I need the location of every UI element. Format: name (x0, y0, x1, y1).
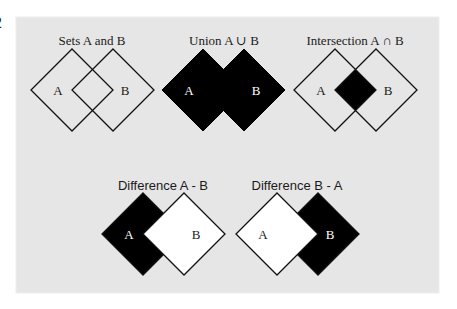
set-a-label: A (184, 83, 194, 98)
cropped-figure-number: 2 (0, 14, 2, 31)
diagram-title: Intersection A ∩ B (306, 33, 403, 48)
set-b-label: B (192, 227, 201, 242)
diagram-title: Difference B - A (252, 178, 343, 193)
set-a-label: A (53, 83, 63, 98)
set-a-label: A (316, 83, 326, 98)
set-a-label: A (124, 227, 134, 242)
diagram-title: Union A ∪ B (189, 33, 259, 48)
set-a-label: A (258, 227, 268, 242)
set-b-label: B (326, 227, 335, 242)
set-b-label: B (121, 83, 130, 98)
diagram-title: Sets A and B (59, 33, 126, 48)
diagram-title: Difference A - B (118, 178, 208, 193)
figure-panel (16, 17, 439, 293)
set-b-label: B (384, 83, 393, 98)
set-b-label: B (252, 83, 261, 98)
set-operations-figure: 2 Sets A and BABUnion A ∪ BABIntersectio… (0, 0, 457, 309)
